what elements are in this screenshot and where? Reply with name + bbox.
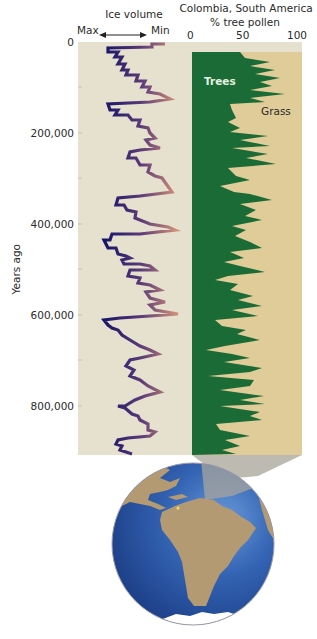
figure-graphics: [0, 0, 317, 639]
grass-label: Grass: [261, 106, 291, 117]
globe: [112, 450, 317, 630]
pollen-panel-header: [190, 42, 302, 52]
trees-label: Trees: [204, 76, 236, 87]
